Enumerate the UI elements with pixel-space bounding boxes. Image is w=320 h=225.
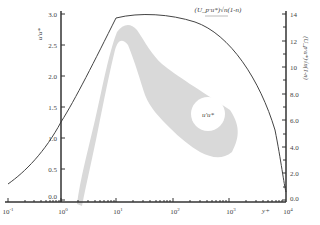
left-tick-1.0: 1.0 (48, 135, 57, 143)
right-tick-4: 4.0 (290, 144, 299, 152)
right-tick-6: 6.0 (290, 117, 299, 125)
right-tick-0: 0.0 (290, 195, 299, 203)
x-tick-1e1: 101 (113, 207, 123, 216)
x-axis-label: y+ (261, 207, 270, 215)
left-tick-3.0: 3.0 (48, 11, 57, 19)
right-axis-label: (U_p·u*)√n(1-n) (302, 36, 310, 79)
center-annotation: u'u* (202, 111, 214, 119)
left-axis-label: u'u* (36, 28, 44, 40)
left-tick-0.5: 0.5 (48, 166, 57, 174)
x-tick-1e3: 103 (226, 207, 236, 216)
x-tick-1e0: 100 (58, 207, 68, 216)
x-tick-1e4: 104 (283, 207, 293, 216)
left-tick-2.5: 2.5 (48, 42, 57, 50)
left-tick-1.5: 1.5 (48, 104, 57, 112)
x-tick-1e-1: 10-1 (2, 207, 14, 216)
top-annotation: (U_p·u*)√n(1-n) (195, 6, 242, 14)
x-tick-1e2: 102 (170, 207, 180, 216)
dual-axis-log-chart: 3.0 2.5 2.0 1.5 1.0 0.5 0.0 u'u* (0, 0, 320, 225)
right-tick-10: 10 (290, 64, 298, 72)
left-tick-2.0: 2.0 (48, 73, 57, 81)
right-tick-8: 8.0 (290, 91, 299, 99)
right-tick-14: 14 (290, 11, 298, 19)
right-tick-2: 2.0 (290, 170, 299, 178)
right-tick-12: 12 (290, 38, 298, 46)
left-tick-0.0: 0.0 (48, 193, 57, 201)
